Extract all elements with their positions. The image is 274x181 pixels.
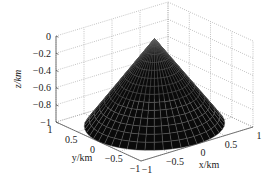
- svg-text:−0.5: −0.5: [105, 153, 123, 164]
- svg-text:−1: −1: [142, 164, 153, 175]
- svg-text:1: 1: [48, 124, 53, 135]
- svg-text:−0.4: −0.4: [33, 65, 51, 76]
- cone-surface-plot: 0−0.2−0.4−0.6−0.8−110.50−0.5−1−1−0.500.5…: [0, 0, 274, 181]
- z-axis-label: z/km: [12, 70, 23, 89]
- svg-text:−0.5: −0.5: [166, 156, 184, 167]
- svg-text:−0.2: −0.2: [33, 48, 51, 59]
- y-axis-label: y/km: [72, 152, 93, 163]
- svg-text:−1: −1: [130, 163, 141, 174]
- svg-text:1: 1: [257, 130, 262, 141]
- svg-text:0: 0: [46, 31, 51, 42]
- x-axis-label: x/km: [199, 159, 220, 170]
- svg-text:−0.8: −0.8: [33, 99, 51, 110]
- svg-text:−0.6: −0.6: [33, 82, 51, 93]
- svg-text:0.5: 0.5: [65, 134, 78, 145]
- svg-text:0: 0: [201, 147, 206, 158]
- svg-text:0.5: 0.5: [225, 139, 238, 150]
